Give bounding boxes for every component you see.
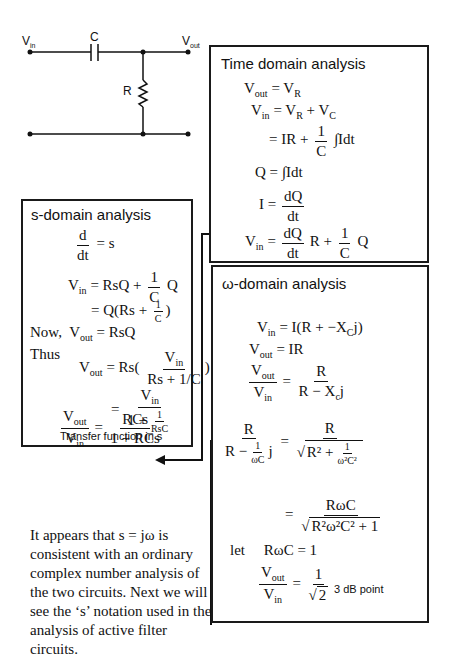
td-eq5: I = dQdt [259,188,306,224]
time-domain-box: Time domain analysis Vout = VR Vin = VR … [209,45,429,263]
od-eq1: Vin = I(R + −XCj) [257,320,363,338]
od-eq4: RR −1ωCj = R√R² +1ω²C² [221,420,367,466]
od-note-3db: 3 dB point [334,583,384,595]
sd-caption: Transfer function in s [60,430,162,442]
time-domain-title: Time domain analysis [221,55,366,72]
od-eq5: = RωC√R²ω²C² + 1 [285,497,384,534]
explanation-paragraph: It appears that s = jω is consistent wit… [30,526,215,658]
capacitor-label: C [90,30,99,44]
sd-eq1: ddt = s [73,227,114,263]
od-eq2: Vout = IR [249,342,304,360]
od-eq3: VoutVin = RR − Xcj [247,362,348,403]
td-eq4: Q = ∫Idt [255,165,303,180]
td-eq6: Vin = dQdt R + 1C Q [245,225,368,261]
sd-transfer-function: VoutVin = RCs1 + RCs [59,408,164,449]
omega-domain-box: ω-domain analysis Vin = I(R + −XCj) Vout… [211,265,429,623]
sd-eq3: = Q(Rs + 1C) [91,299,171,324]
td-eq3: = IR + 1C ∫Idt [269,123,355,159]
sd-eq5: Thus [30,347,60,362]
s-domain-title: s-domain analysis [31,206,151,223]
sd-eq4: Now, Vout = RsQ [30,325,135,343]
omega-domain-title: ω-domain analysis [222,275,346,292]
resistor-label: R [123,84,132,98]
vin-label: Vin [22,34,35,49]
od-eq6: let RωC = 1 [230,543,317,558]
vout-label: Vout [182,34,200,49]
od-eq7: VoutVin = 1√2 [257,564,332,605]
td-eq2: Vin = VR + VC [251,103,336,121]
sd-eq5-formula: Vout = Rs( VinRs + 1/C) [79,349,210,388]
td-eq1: Vout = VR [244,81,301,99]
